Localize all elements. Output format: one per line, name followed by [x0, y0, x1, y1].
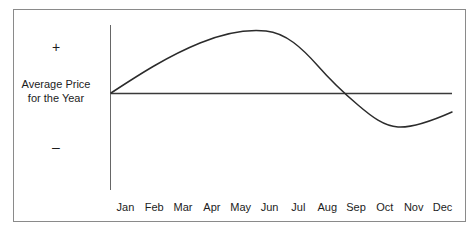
x-axis-tick-jul: Jul — [284, 199, 313, 215]
x-axis-month-labels: JanFebMarAprMayJunJulAugSepOctNovDec — [111, 199, 457, 215]
x-axis-tick-mar: Mar — [169, 199, 198, 215]
y-axis-positive-marker: + — [0, 39, 112, 55]
y-axis-title-line-2: for the Year — [4, 92, 108, 106]
x-axis-tick-apr: Apr — [197, 199, 226, 215]
x-axis-tick-jan: Jan — [111, 199, 140, 215]
x-axis-tick-feb: Feb — [140, 199, 169, 215]
x-axis-tick-aug: Aug — [313, 199, 342, 215]
price-curve — [111, 31, 452, 128]
x-axis-tick-sep: Sep — [342, 199, 371, 215]
x-axis-tick-jun: Jun — [255, 199, 284, 215]
x-axis-tick-may: May — [226, 199, 255, 215]
x-axis-tick-nov: Nov — [399, 199, 428, 215]
y-axis-title-line-1: Average Price — [4, 78, 108, 92]
chart-screenshot: + Average Price for the Year – JanFebMar… — [0, 0, 476, 239]
x-axis-tick-dec: Dec — [428, 199, 457, 215]
y-axis-negative-marker: – — [0, 139, 112, 155]
y-axis-title: Average Price for the Year — [4, 78, 108, 105]
x-axis-tick-oct: Oct — [370, 199, 399, 215]
